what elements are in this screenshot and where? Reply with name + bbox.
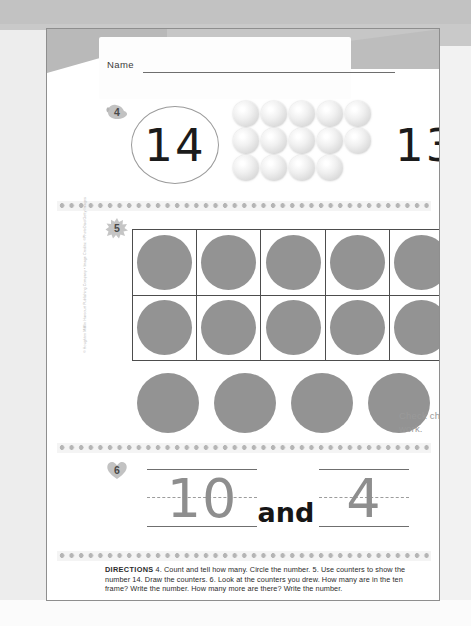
teacher-annotation: Check children's work.	[399, 410, 440, 435]
counter-disc	[330, 300, 385, 355]
number-14: 14	[144, 119, 205, 172]
directions-heading: DIRECTIONS	[105, 565, 154, 574]
counter-disc	[266, 300, 321, 355]
counter-disc	[394, 300, 440, 355]
scan-bottom-margin	[0, 600, 471, 626]
apple-row	[233, 101, 373, 127]
drawn-counters-row	[137, 373, 437, 435]
apple-icon	[317, 155, 343, 181]
apple-icon	[289, 101, 315, 127]
counter-disc	[394, 235, 440, 290]
directions-block: DIRECTIONS 4. Count and tell how many. C…	[105, 565, 425, 594]
ten-frame-cell[interactable]	[390, 296, 440, 361]
counter-disc	[330, 235, 385, 290]
exercise-6-number: 6	[114, 464, 120, 476]
apple-icon	[289, 155, 315, 181]
apple-icon	[289, 128, 315, 154]
ten-frame-cell[interactable]	[133, 296, 197, 361]
answer-line-second[interactable]: 4	[319, 469, 409, 527]
counter-disc	[201, 300, 256, 355]
counter-disc	[291, 373, 353, 433]
apple-icon	[261, 101, 287, 127]
apple-icon	[233, 101, 259, 127]
apple-row	[233, 155, 373, 181]
ten-frame-row	[133, 230, 440, 296]
number-13: 13	[395, 119, 440, 172]
ten-frame-cell[interactable]	[390, 230, 440, 295]
apple-counters-group	[233, 101, 373, 182]
apple-icon	[317, 101, 343, 127]
answer-line-first[interactable]: 10	[147, 469, 257, 527]
ten-frame-cell[interactable]	[261, 296, 325, 361]
apple-row	[233, 128, 373, 154]
exercise-6-marker: 6	[105, 459, 129, 481]
scan-left-margin	[0, 30, 52, 626]
written-number-4: 4	[319, 463, 409, 533]
apple-icon	[233, 128, 259, 154]
counter-disc	[266, 235, 321, 290]
name-label: Name	[107, 59, 134, 70]
name-write-line	[143, 72, 395, 73]
apple-icon	[261, 128, 287, 154]
counter-disc	[137, 235, 192, 290]
name-field[interactable]: Name	[107, 59, 407, 77]
ten-frame-cell[interactable]	[133, 230, 197, 295]
apple-icon	[345, 128, 371, 154]
counter-disc	[201, 235, 256, 290]
exercise-5-number: 5	[114, 222, 120, 234]
scan-shadow-band-upper	[0, 0, 471, 24]
apple-icon	[345, 101, 371, 127]
exercise-5-marker: 5	[105, 217, 129, 239]
ten-frame[interactable]	[132, 229, 440, 361]
dotted-divider-1	[59, 201, 429, 210]
ten-frame-cell[interactable]	[326, 230, 390, 295]
apple-icon	[261, 155, 287, 181]
written-number-10: 10	[147, 463, 257, 533]
ten-frame-row	[133, 296, 440, 361]
copyright-credit: © Houghton Mifflin Harcourt Publishing C…	[83, 173, 87, 353]
apple-icon	[317, 128, 343, 154]
counter-disc	[214, 373, 276, 433]
exercise-4-marker: 4	[105, 101, 129, 123]
answer-choice-14-circled[interactable]: 14	[131, 106, 219, 184]
apple-icon	[233, 155, 259, 181]
exercise-4-number: 4	[114, 106, 120, 118]
ten-frame-cell[interactable]	[197, 296, 261, 361]
counter-disc	[137, 300, 192, 355]
dotted-divider-2	[59, 443, 429, 452]
and-label: and	[243, 497, 329, 528]
ten-frame-cell[interactable]	[261, 230, 325, 295]
ten-frame-cell[interactable]	[326, 296, 390, 361]
counter-disc	[137, 373, 199, 433]
ten-frame-cell[interactable]	[197, 230, 261, 295]
worksheet-page: Name 4 14	[46, 28, 440, 601]
answer-choice-13[interactable]: 13	[395, 109, 440, 181]
dotted-divider-3	[59, 551, 429, 560]
